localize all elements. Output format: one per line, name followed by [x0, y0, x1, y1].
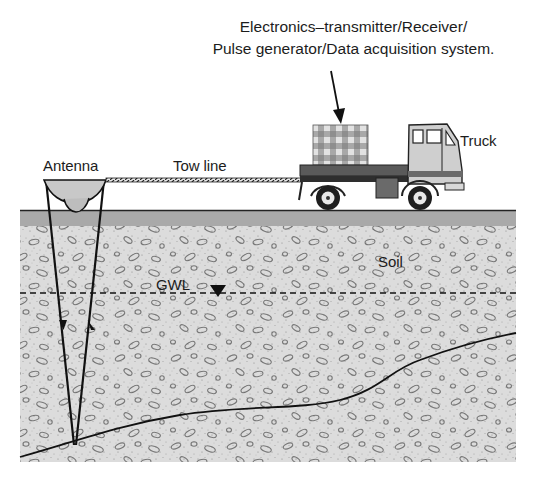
antenna	[44, 180, 106, 212]
antenna-label: Antenna	[43, 157, 98, 175]
truck-label: Truck	[460, 132, 496, 150]
tow-line	[106, 178, 302, 182]
electronics-caption: Electronics–transmitter/Receiver/ Pulse …	[170, 16, 537, 60]
diagram-canvas	[0, 0, 537, 487]
electronics-box	[313, 125, 368, 165]
soil-label: Soil	[378, 253, 403, 271]
truck	[299, 124, 464, 210]
gpr-diagram: Electronics–transmitter/Receiver/ Pulse …	[0, 0, 537, 487]
caption-line-1: Electronics–transmitter/Receiver/	[170, 16, 537, 38]
caption-line-2: Pulse generator/Data acquisition system.	[170, 38, 537, 60]
soil-block	[20, 210, 516, 462]
gwl-label: GWL	[156, 276, 190, 294]
arrow-head-icon	[333, 108, 345, 124]
tow-line-label: Tow line	[173, 157, 226, 175]
ground-surface-band	[20, 210, 516, 226]
pointer-arrow	[331, 71, 345, 124]
